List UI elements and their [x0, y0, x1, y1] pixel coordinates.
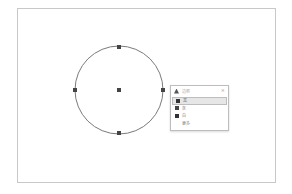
close-icon[interactable]: × — [221, 88, 225, 93]
option-item[interactable]: 黑 — [172, 97, 227, 105]
option-list: 黑 灰 白 更多 — [172, 97, 227, 127]
option-label: 灰 — [182, 106, 186, 111]
color-swatch — [175, 106, 179, 110]
option-item[interactable]: 灰 — [172, 105, 227, 113]
resize-handle-bottom[interactable] — [117, 131, 121, 135]
circle-shape[interactable] — [0, 0, 292, 194]
option-label: 黑 — [183, 98, 187, 103]
color-swatch — [175, 114, 179, 118]
more-options-item[interactable]: 更多 — [172, 120, 227, 128]
resize-handle-left[interactable] — [73, 88, 77, 92]
option-label: 更多 — [182, 121, 190, 126]
option-label: 白 — [182, 113, 186, 118]
resize-handle-right[interactable] — [161, 88, 165, 92]
option-item[interactable]: 白 — [172, 112, 227, 120]
popup-header: 边框 × — [171, 86, 228, 96]
color-swatch — [176, 99, 180, 103]
style-popup: 边框 × 黑 灰 白 更多 — [170, 85, 229, 131]
resize-handle-center[interactable] — [117, 88, 121, 92]
resize-handle-top[interactable] — [117, 45, 121, 49]
fill-icon — [174, 89, 179, 94]
popup-title: 边框 — [182, 89, 190, 94]
